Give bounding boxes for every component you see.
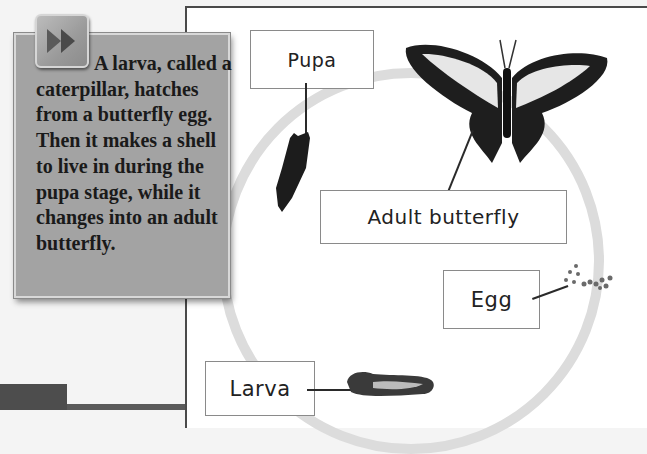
pupa-label-text: Pupa bbox=[288, 49, 337, 71]
egg-label-text: Egg bbox=[471, 288, 512, 312]
butterfly-image bbox=[402, 38, 612, 168]
fast-forward-icon bbox=[45, 27, 79, 55]
info-panel: A larva, called a caterpillar, hatches f… bbox=[14, 33, 230, 298]
bottom-strip bbox=[67, 404, 185, 410]
panel-text: A larva, called a caterpillar, hatches f… bbox=[36, 51, 236, 257]
fast-forward-button[interactable] bbox=[35, 14, 89, 68]
pupa-image bbox=[270, 128, 320, 216]
egg-label: Egg bbox=[443, 270, 540, 329]
pupa-label: Pupa bbox=[250, 30, 374, 89]
page-tab bbox=[0, 384, 67, 410]
eggs-image bbox=[562, 260, 622, 300]
adult-butterfly-label-text: Adult butterfly bbox=[368, 205, 520, 229]
adult-butterfly-label: Adult butterfly bbox=[320, 190, 567, 244]
larva-image bbox=[343, 368, 439, 400]
larva-label: Larva bbox=[205, 361, 315, 416]
larva-label-text: Larva bbox=[230, 377, 291, 401]
